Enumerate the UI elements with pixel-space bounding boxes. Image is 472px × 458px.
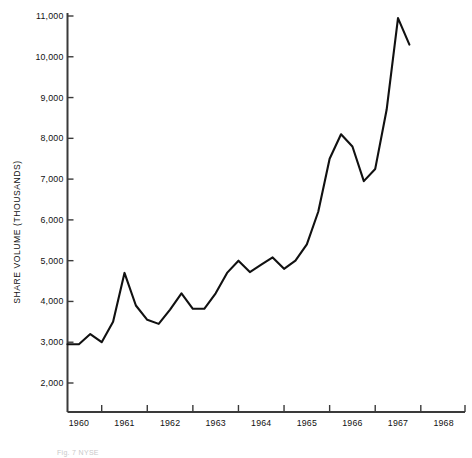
axes-group	[68, 13, 466, 412]
y-tick-label-4000: 4,000	[40, 296, 63, 306]
x-tick-label-1967: 1967	[388, 418, 408, 428]
share-volume-line-chart: SHARE VOLUME (THOUSANDS) 2,0003,0004,000…	[0, 0, 472, 458]
x-tick-label-1968: 1968	[433, 418, 453, 428]
data-line-group	[68, 18, 410, 344]
y-tick-label-7000: 7,000	[40, 174, 63, 184]
figure-caption: Fig. 7 NYSE	[57, 449, 99, 456]
x-tick-label-1964: 1964	[251, 418, 271, 428]
y-tick-label-11000: 11,000	[36, 11, 63, 21]
chart-plot-area	[0, 0, 472, 458]
tick-marks-group	[68, 16, 466, 412]
x-tick-label-1962: 1962	[160, 418, 180, 428]
y-tick-label-6000: 6,000	[40, 215, 63, 225]
data-line-share-volume	[68, 18, 410, 344]
y-tick-label-2000: 2,000	[40, 378, 63, 388]
y-tick-label-3000: 3,000	[40, 337, 63, 347]
x-tick-label-1961: 1961	[114, 418, 134, 428]
y-tick-label-10000: 10,000	[35, 52, 63, 62]
y-tick-label-8000: 8,000	[40, 133, 63, 143]
x-tick-label-1965: 1965	[297, 418, 317, 428]
x-tick-label-1963: 1963	[205, 418, 225, 428]
y-tick-label-5000: 5,000	[40, 256, 63, 266]
y-tick-label-9000: 9,000	[40, 93, 63, 103]
x-tick-label-1966: 1966	[342, 418, 362, 428]
x-tick-label-1960: 1960	[69, 418, 89, 428]
